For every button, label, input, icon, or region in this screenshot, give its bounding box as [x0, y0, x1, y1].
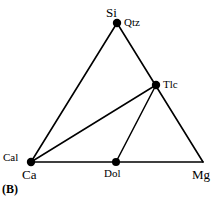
triangle-edges: [31, 23, 203, 162]
edge-si-ca: [31, 23, 117, 162]
phase-label-dol: Dol: [104, 168, 121, 179]
ternary-phase-diagram-figure: Si Qtz Tlc Cal Ca Dol Mg (B): [0, 0, 219, 197]
phase-markers: [27, 19, 160, 166]
phase-label-cal: Cal: [3, 152, 18, 163]
tie-lines: [31, 85, 156, 162]
marker-cal: [27, 158, 35, 166]
tie-line-cal-tlc: [31, 85, 156, 162]
edge-si-mg: [117, 23, 203, 162]
marker-tlc: [152, 81, 160, 89]
phase-label-qtz: Qtz: [124, 17, 140, 28]
component-label-mg: Mg: [192, 168, 210, 181]
panel-tag: (B): [2, 183, 18, 195]
marker-qtz: [113, 19, 121, 27]
phase-label-tlc: Tlc: [163, 79, 178, 90]
marker-dol: [112, 158, 120, 166]
component-label-ca: Ca: [22, 168, 36, 181]
component-label-si: Si: [106, 6, 117, 19]
